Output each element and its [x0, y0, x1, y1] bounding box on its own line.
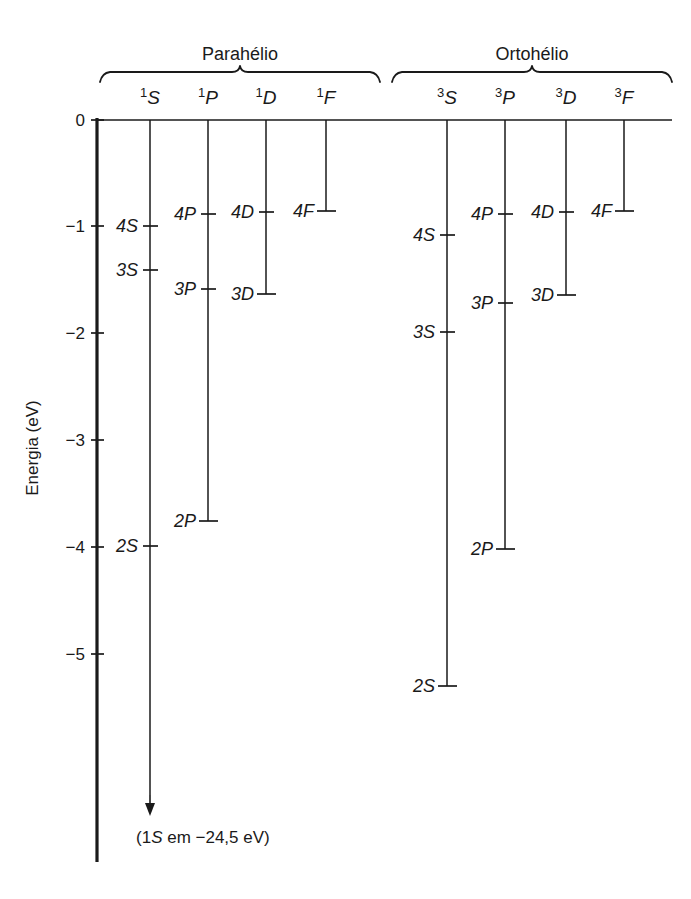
column-header-1F: 1F — [317, 85, 337, 108]
column-header-3D-superscript: 3 — [556, 85, 563, 100]
ground-state-note-prefix: (1 — [136, 828, 151, 847]
column-3D: 4D 3D — [531, 120, 576, 305]
column-header-3S-term: S — [444, 87, 457, 108]
column-1F: 4F — [293, 120, 336, 221]
column-header-1S-term: S — [147, 87, 160, 108]
column-header-1D-superscript: 1 — [256, 85, 263, 100]
level-label-1S-2S: 2S — [115, 536, 138, 556]
column-3S: 4S 3S 2S — [412, 120, 457, 696]
column-1P: 4P 3P 2P — [173, 120, 218, 531]
column-header-1S: 1S — [140, 85, 160, 108]
axis-label-minus1: −1 — [66, 217, 85, 236]
group-bracket-ortohelio — [392, 66, 672, 82]
column-1D: 4D 3D — [231, 120, 276, 304]
column-header-3F: 3F — [615, 85, 635, 108]
diagram-canvas: Parahélio Ortohélio 1S 1P 1D 1F 3S 3P 3D… — [0, 0, 691, 899]
level-label-1P-2P: 2P — [173, 511, 196, 531]
column-header-3P-term: P — [502, 87, 515, 108]
level-label-3P-4P: 4P — [471, 204, 493, 224]
ground-state-note-suffix: em −24,5 eV) — [162, 828, 269, 847]
energy-level-diagram: Parahélio Ortohélio 1S 1P 1D 1F 3S 3P 3D… — [0, 0, 691, 899]
level-label-3S-3S: 3S — [413, 322, 435, 342]
level-label-1P-4P: 4P — [174, 204, 196, 224]
column-header-3D-term: D — [563, 87, 577, 108]
axis-label-minus4: −4 — [66, 538, 85, 557]
axis-label-minus2: −2 — [66, 324, 85, 343]
axis-label-0: 0 — [76, 111, 85, 130]
axis-tick-labels: 0 −1 −2 −3 −4 −5 — [66, 111, 85, 664]
column-header-3S-superscript: 3 — [437, 85, 444, 100]
column-3P: 4P 3P 2P — [470, 120, 515, 559]
column-header-1P-term: P — [205, 87, 218, 108]
group-title-parahelio: Parahélio — [202, 44, 278, 64]
level-label-1D-3D: 3D — [231, 284, 254, 304]
column-1S-arrow-head — [145, 803, 155, 816]
axis-label-minus5: −5 — [66, 645, 85, 664]
level-label-1S-3S: 3S — [116, 260, 138, 280]
column-header-3P-superscript: 3 — [495, 85, 502, 100]
axis-label-minus3: −3 — [66, 431, 85, 450]
column-header-1P: 1P — [198, 85, 218, 108]
column-header-3D: 3D — [556, 85, 577, 108]
level-label-1D-4D: 4D — [231, 202, 254, 222]
column-header-1P-superscript: 1 — [198, 85, 205, 100]
column-1S: 4S 3S 2S — [115, 120, 158, 816]
column-header-1F-superscript: 1 — [317, 85, 324, 100]
column-3F: 4F — [591, 120, 634, 221]
column-header-3S: 3S — [437, 85, 457, 108]
level-label-1F-4F: 4F — [293, 201, 315, 221]
group-bracket-parahelio — [100, 66, 380, 82]
ground-state-note-term: S — [151, 828, 163, 847]
column-header-1D: 1D — [256, 85, 277, 108]
level-label-3P-2P: 2P — [470, 539, 493, 559]
level-label-3S-2S: 2S — [412, 676, 435, 696]
level-label-3D-3D: 3D — [531, 285, 554, 305]
level-label-3P-3P: 3P — [471, 293, 493, 313]
column-header-3P: 3P — [495, 85, 515, 108]
column-headers: 1S 1P 1D 1F 3S 3P 3D 3F — [140, 85, 635, 108]
column-header-1D-term: D — [263, 87, 277, 108]
level-label-3D-4D: 4D — [531, 202, 554, 222]
column-header-3F-superscript: 3 — [615, 85, 622, 100]
column-header-1S-superscript: 1 — [140, 85, 147, 100]
column-header-1F-term: F — [324, 87, 337, 108]
group-title-ortohelio: Ortohélio — [495, 44, 568, 64]
ground-state-note: (1S em −24,5 eV) — [136, 828, 270, 847]
column-header-3F-term: F — [622, 87, 635, 108]
level-label-3F-4F: 4F — [591, 201, 613, 221]
y-axis-title: Energia (eV) — [23, 400, 42, 495]
level-label-3S-4S: 4S — [413, 225, 435, 245]
level-label-1S-4S: 4S — [116, 216, 138, 236]
level-label-1P-3P: 3P — [174, 279, 196, 299]
